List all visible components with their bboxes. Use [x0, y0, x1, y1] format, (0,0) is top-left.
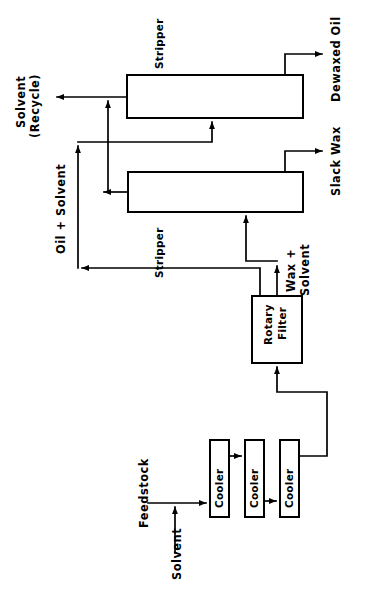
label-stream-wax-solvent-line1: Wax +	[284, 249, 298, 292]
label-rotary-filter-line1: Rotary	[262, 304, 274, 345]
label-cooler-1: Cooler	[213, 468, 225, 508]
label-stream-dewaxed-oil: Dewaxed Oil	[329, 16, 343, 102]
label-cooler-3: Cooler	[283, 468, 295, 508]
label-stream-oil-solvent: Oil + Solvent	[54, 164, 68, 254]
label-stream-feedstock: Feedstock	[137, 458, 151, 528]
label-stripper-lower: Stripper	[153, 227, 165, 278]
label-stream-wax-solvent-line2: Solvent	[298, 244, 312, 296]
label-rotary-filter-line2: Filter	[276, 306, 288, 340]
flow-diagram-canvas: Stripper Stripper Rotary Filter Cooler C…	[0, 0, 369, 600]
label-stream-solvent: Solvent	[170, 528, 184, 580]
label-stripper-upper: Stripper	[153, 18, 165, 69]
unit-box-stripper-upper	[127, 75, 303, 118]
label-stream-solvent-recycle-line2: (Recycle)	[28, 74, 42, 138]
label-stream-slack-wax: Slack Wax	[329, 126, 343, 196]
unit-box-stripper-lower	[128, 172, 303, 212]
label-cooler-2: Cooler	[248, 468, 260, 508]
process-flow-diagram: Stripper Stripper Rotary Filter Cooler C…	[0, 0, 369, 600]
label-stream-solvent-recycle-line1: Solvent	[14, 76, 28, 128]
